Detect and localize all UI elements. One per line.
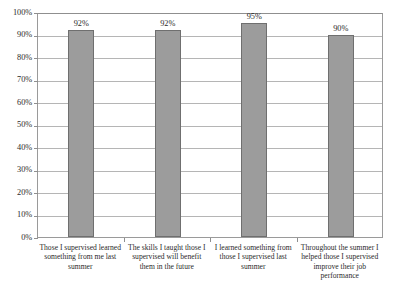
y-axis-tick-label: 60% [0,99,32,107]
x-axis-category-label: Throughout the summer I helped those I s… [297,243,384,281]
bar[interactable] [68,30,94,237]
bar[interactable] [241,23,267,237]
y-axis-tick-label: 10% [0,211,32,219]
bars-layer: 92%92%95%90% [38,14,382,237]
x-axis-tickmark [210,238,211,242]
y-axis-tick-label: 80% [0,54,32,62]
y-axis-tickmark [34,238,38,239]
bar-slot: 92% [125,14,212,237]
y-axis-tick-label: 90% [0,31,32,39]
plot-area: 92%92%95%90% [37,13,383,238]
bar-value-label: 90% [333,24,348,33]
y-axis-tick-label: 30% [0,166,32,174]
y-axis-tick-label: 0% [0,234,32,242]
y-axis-tick-label: 20% [0,189,32,197]
bar-slot: 92% [38,14,125,237]
bar-value-label: 92% [160,19,175,28]
x-axis-tickmark [297,238,298,242]
bar[interactable] [155,30,181,237]
bar[interactable] [328,35,354,238]
y-axis-tick-label: 70% [0,76,32,84]
bar-chart: 0%10%20%30%40%50%60%70%80%90%100% 92%92%… [0,0,404,296]
x-axis-category-label: Those I supervised learned something fro… [37,243,124,271]
x-axis-category-label: I learned something from those I supervi… [210,243,297,271]
bar-slot: 95% [211,14,298,237]
y-axis-tick-label: 40% [0,144,32,152]
x-axis-category-label: The skills I taught those I supervised w… [124,243,211,271]
bar-value-label: 92% [74,19,89,28]
y-axis: 0%10%20%30%40%50%60%70%80%90%100% [0,0,36,296]
bar-slot: 90% [298,14,385,237]
bar-value-label: 95% [247,12,262,21]
y-axis-tick-label: 100% [0,9,32,17]
x-axis: Those I supervised learned something fro… [37,243,383,295]
x-axis-tickmark [124,238,125,242]
y-axis-tick-label: 50% [0,121,32,129]
